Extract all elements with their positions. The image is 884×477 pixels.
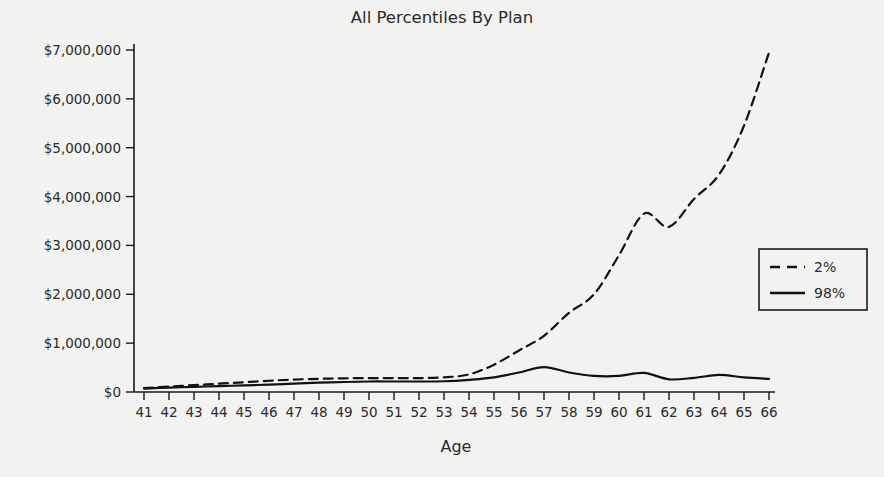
all-percentiles-by-plan-chart: All Percentiles By Plan $0$1,000,000$2,0… — [0, 0, 884, 477]
legend-label: 98% — [814, 285, 845, 301]
x-tick-label: 58 — [560, 404, 577, 420]
y-axis-ticks: $0$1,000,000$2,000,000$3,000,000$4,000,0… — [44, 42, 134, 400]
x-tick-label: 45 — [235, 404, 252, 420]
legend-box — [759, 249, 867, 310]
chart-title: All Percentiles By Plan — [351, 8, 533, 27]
y-tick-label: $0 — [104, 384, 121, 400]
x-tick-label: 46 — [260, 404, 277, 420]
x-tick-label: 65 — [735, 404, 752, 420]
series-line-2pct — [144, 52, 769, 388]
x-axis-ticks: 4142434445464748495051525354555657585960… — [135, 392, 777, 420]
y-tick-label: $2,000,000 — [44, 286, 121, 302]
chart-container: All Percentiles By Plan $0$1,000,000$2,0… — [0, 0, 884, 477]
x-tick-label: 44 — [210, 404, 227, 420]
x-tick-label: 61 — [635, 404, 652, 420]
series-line-98pct — [144, 367, 769, 389]
x-tick-label: 53 — [435, 404, 452, 420]
x-tick-label: 50 — [360, 404, 377, 420]
y-tick-label: $1,000,000 — [44, 335, 121, 351]
y-tick-label: $3,000,000 — [44, 237, 121, 253]
x-tick-label: 57 — [535, 404, 552, 420]
x-tick-label: 62 — [660, 404, 677, 420]
y-tick-label: $7,000,000 — [44, 42, 121, 58]
x-tick-label: 55 — [485, 404, 502, 420]
chart-legend[interactable]: 2%98% — [759, 249, 867, 310]
series-lines — [144, 52, 769, 388]
x-axis-label: Age — [441, 437, 472, 456]
x-tick-label: 59 — [585, 404, 602, 420]
x-tick-label: 51 — [385, 404, 402, 420]
x-tick-label: 42 — [160, 404, 177, 420]
x-tick-label: 66 — [760, 404, 777, 420]
x-tick-label: 60 — [610, 404, 627, 420]
x-tick-label: 41 — [135, 404, 152, 420]
legend-label: 2% — [814, 259, 836, 275]
x-tick-label: 52 — [410, 404, 427, 420]
y-tick-label: $6,000,000 — [44, 91, 121, 107]
x-tick-label: 64 — [710, 404, 727, 420]
x-tick-label: 54 — [460, 404, 477, 420]
y-tick-label: $5,000,000 — [44, 140, 121, 156]
y-tick-label: $4,000,000 — [44, 189, 121, 205]
x-tick-label: 47 — [285, 404, 302, 420]
x-tick-label: 63 — [685, 404, 702, 420]
x-tick-label: 48 — [310, 404, 327, 420]
x-tick-label: 43 — [185, 404, 202, 420]
x-tick-label: 56 — [510, 404, 527, 420]
x-tick-label: 49 — [335, 404, 352, 420]
